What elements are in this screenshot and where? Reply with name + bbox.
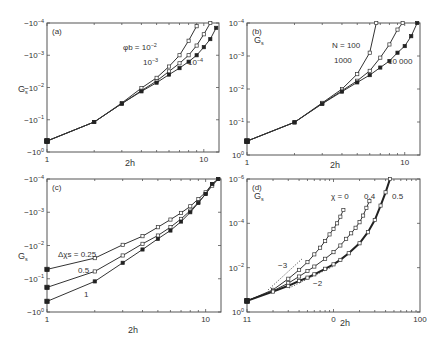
data-point: [202, 33, 205, 36]
data-point: [306, 276, 309, 279]
data-point: [195, 25, 198, 28]
data-point: [342, 208, 345, 211]
data-point: [155, 81, 158, 84]
data-point: [93, 280, 96, 283]
data-point: [379, 56, 382, 59]
data-point: [324, 257, 327, 260]
panel-b: (b) 10010−110−210−310−4 110 2h N = 10010…: [229, 18, 420, 171]
data-point: [45, 267, 49, 271]
data-point: [187, 39, 190, 42]
svg-text:−10−1: −10−1: [24, 114, 44, 125]
series-annotation: 0.4: [364, 192, 376, 201]
data-point: [121, 261, 124, 264]
data-point: [324, 267, 327, 270]
svg-text:1: 1: [45, 155, 50, 164]
data-point: [169, 226, 172, 229]
svg-text:0: 0: [331, 315, 336, 324]
data-point: [416, 21, 419, 24]
data-point: [217, 177, 220, 180]
svg-text:−100: −100: [27, 307, 44, 318]
slope-guide-label: −2: [313, 279, 323, 288]
panel-c-ticks: [47, 179, 221, 312]
data-point: [332, 227, 335, 230]
data-point: [167, 73, 170, 76]
slope-guide-label: −3: [278, 261, 288, 270]
svg-text:−10−3: −10−3: [24, 207, 44, 218]
panel-a-curves: [45, 21, 218, 143]
data-point: [358, 242, 361, 245]
panel-b-x-tick-labels: 110: [245, 158, 410, 167]
data-point: [347, 252, 350, 255]
data-point: [368, 51, 371, 54]
panel-a-x-axis-label: 2h: [125, 158, 135, 168]
data-point: [293, 121, 296, 124]
data-point: [328, 233, 331, 236]
data-point: [178, 67, 181, 70]
panel-c: (c) −100−10−1−10−2−10−3−10−4 110 Gs 2h Δ…: [18, 174, 221, 336]
data-point: [93, 120, 96, 123]
data-point: [120, 102, 123, 105]
data-point: [340, 90, 343, 93]
svg-text:−10−4: −10−4: [24, 18, 44, 29]
data-point: [373, 218, 376, 221]
slope-guide: [289, 266, 334, 288]
data-point: [45, 299, 49, 303]
data-point: [313, 273, 316, 276]
panel-d: (d) 10010−210−410−6 110100 −3−2 2h χ = 0…: [229, 174, 427, 329]
data-point: [179, 211, 182, 214]
svg-text:10−4: 10−4: [229, 218, 244, 229]
data-point: [202, 46, 205, 49]
data-point: [141, 242, 144, 245]
panel-b-curves: [245, 21, 419, 143]
series-line: [47, 23, 210, 141]
series-annotation: 10−3: [143, 57, 158, 68]
data-point: [156, 237, 159, 240]
panel-d-x-axis-label: 2h: [340, 318, 350, 328]
series-annotation: 1000: [334, 56, 352, 65]
data-point: [396, 28, 399, 31]
data-point: [339, 244, 342, 247]
data-point: [197, 201, 200, 204]
panel-c-curves: [45, 177, 220, 303]
data-point: [297, 275, 300, 278]
data-point: [396, 51, 399, 54]
data-point: [141, 235, 144, 238]
data-point: [245, 139, 249, 143]
series-line: [247, 23, 403, 141]
series-annotation: Δχs = 0.25: [58, 250, 97, 259]
data-point: [121, 243, 124, 246]
panel-b-legend-annotations: N = 100100010 000Gs: [254, 35, 413, 66]
data-point: [179, 220, 182, 223]
data-point: [332, 263, 335, 266]
svg-text:−10−1: −10−1: [24, 273, 44, 284]
data-point: [375, 21, 378, 24]
panel-c-frame: [47, 179, 221, 312]
panel-b-y-tick-labels: 10010−110−210−310−4: [229, 18, 244, 161]
data-point: [379, 66, 382, 69]
panel-d-slope-guides: −3−2: [268, 258, 334, 290]
data-point: [156, 226, 159, 229]
data-point: [366, 231, 369, 234]
svg-text:Gs: Gs: [254, 35, 264, 46]
panel-a: (a) −100−10−1−10−2−10−3−10−4 110 Gs 2h φ…: [18, 18, 219, 169]
data-point: [45, 139, 49, 143]
svg-text:Gs: Gs: [254, 191, 264, 202]
panel-a-y-tick-labels: −100−10−1−10−2−10−3−10−4: [24, 18, 44, 158]
figure-canvas: (a) −100−10−1−10−2−10−3−10−4 110 Gs 2h φ…: [0, 0, 446, 350]
svg-text:100: 100: [413, 315, 427, 324]
data-point: [209, 21, 212, 24]
data-point: [388, 177, 391, 180]
data-point: [169, 229, 172, 232]
data-point: [335, 222, 338, 225]
svg-text:10−2: 10−2: [229, 262, 244, 273]
data-point: [368, 74, 371, 77]
data-point: [167, 70, 170, 73]
data-point: [401, 21, 404, 24]
svg-text:10−3: 10−3: [229, 51, 244, 62]
svg-text:10−1: 10−1: [229, 117, 244, 128]
data-point: [297, 279, 300, 282]
data-point: [93, 270, 96, 273]
data-point: [321, 102, 324, 105]
panel-b-x-axis-label: 2h: [330, 160, 340, 170]
data-point: [332, 251, 335, 254]
